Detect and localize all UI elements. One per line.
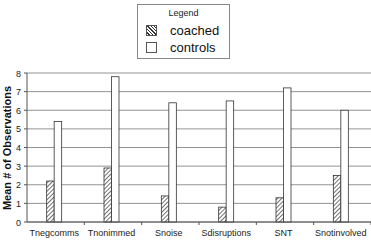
y-axis-label: Mean # of Observations: [1, 86, 13, 210]
bar-controls: [169, 103, 177, 222]
gridlines: [27, 73, 371, 222]
hatched-swatch-icon: [146, 25, 157, 36]
x-tick-label: Snoise: [155, 228, 183, 238]
bar-coached: [219, 207, 227, 222]
legend-label: coached: [170, 23, 219, 38]
bar-coached: [276, 198, 284, 222]
y-tick-label: 6: [16, 106, 21, 116]
x-axis-ticks: TnegcommsTnonimmedSnoiseSdisruptionsSNTS…: [29, 222, 371, 238]
legend-item-controls: controls: [146, 40, 216, 55]
legend-label: controls: [170, 40, 216, 55]
bar-coached: [333, 175, 341, 222]
legend-item-coached: coached: [146, 23, 219, 38]
x-tick-label: Sdisruptions: [201, 228, 251, 238]
y-tick-label: 5: [16, 124, 21, 134]
bar-controls: [341, 110, 349, 222]
x-tick-label: SNT: [275, 228, 294, 238]
x-tick-label: Snotinvolved: [315, 228, 367, 238]
y-tick-label: 0: [16, 218, 21, 228]
y-tick-label: 4: [16, 143, 21, 153]
bar-controls: [54, 121, 62, 222]
y-tick-label: 7: [16, 87, 21, 97]
x-tick-label: Tnonimmed: [88, 228, 136, 238]
plain-swatch-icon: [146, 42, 157, 53]
y-tick-label: 2: [16, 180, 21, 190]
bar-controls: [226, 101, 234, 222]
x-tick-label: Tnegcomms: [29, 228, 79, 238]
bar-coached: [161, 196, 169, 222]
bars: [47, 77, 349, 222]
y-tick-label: 3: [16, 162, 21, 172]
legend: Legend coached controls: [137, 4, 230, 59]
bar-controls: [112, 77, 120, 222]
y-axis-ticks: 012345678: [16, 69, 27, 228]
bar-coached: [104, 168, 112, 222]
bar-coached: [47, 181, 55, 222]
y-tick-label: 8: [16, 69, 21, 79]
legend-title: Legend: [138, 8, 229, 18]
y-tick-label: 1: [16, 199, 21, 209]
bar-controls: [284, 88, 292, 222]
